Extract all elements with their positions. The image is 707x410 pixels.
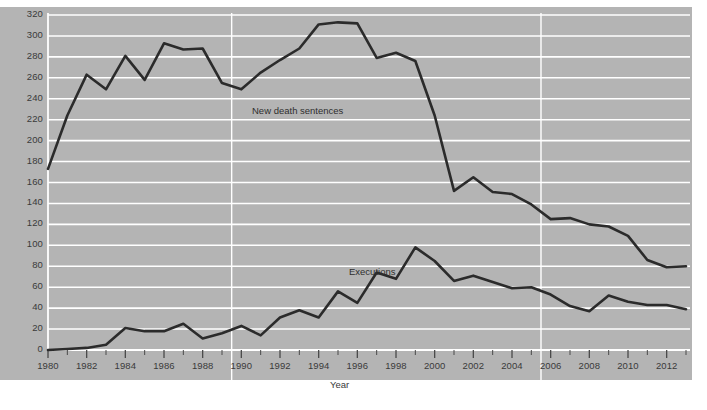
series-label-new-death-sentences: New death sentences [252, 105, 343, 116]
x-axis-tick-label: 1996 [337, 360, 377, 371]
y-axis-tick-label: 260 [13, 71, 43, 82]
y-axis-tick-label: 140 [13, 196, 43, 207]
y-axis-tick-label: 280 [13, 50, 43, 61]
chart-root: 0204060801001201401601802002202402602803… [0, 0, 707, 410]
y-axis-tick-label: 100 [13, 238, 43, 249]
y-axis-tick-label: 40 [13, 301, 43, 312]
y-axis-tick-label: 200 [13, 134, 43, 145]
x-axis-tick-label: 1998 [376, 360, 416, 371]
x-axis-tick-label: 1986 [144, 360, 184, 371]
axis-lines [48, 13, 690, 350]
x-axis-tick-label: 1994 [299, 360, 339, 371]
x-axis-tick-label: 1984 [105, 360, 145, 371]
series-label-executions: Executions [349, 266, 395, 277]
x-axis-title: Year [330, 379, 349, 390]
y-axis-tick-label: 320 [13, 8, 43, 19]
x-axis-tick-label: 2008 [569, 360, 609, 371]
data-series-lines [48, 22, 686, 350]
x-axis-ticks [48, 350, 686, 358]
y-axis-tick-label: 300 [13, 29, 43, 40]
y-axis-tick-label: 240 [13, 92, 43, 103]
y-axis-tick-label: 80 [13, 259, 43, 270]
x-axis-tick-label: 2006 [531, 360, 571, 371]
x-axis-tick-label: 2012 [647, 360, 687, 371]
x-axis-tick-label: 1980 [28, 360, 68, 371]
x-axis-tick-label: 1990 [221, 360, 261, 371]
y-axis-tick-label: 60 [13, 280, 43, 291]
y-axis-tick-label: 0 [13, 343, 43, 354]
x-axis-tick-label: 2002 [453, 360, 493, 371]
horizontal-gridlines [48, 15, 690, 329]
x-axis-tick-label: 1992 [260, 360, 300, 371]
x-axis-tick-label: 2010 [608, 360, 648, 371]
y-axis-tick-label: 180 [13, 155, 43, 166]
x-axis-tick-label: 2000 [415, 360, 455, 371]
chart-plot-area [0, 7, 692, 380]
chart-panel: 0204060801001201401601802002202402602803… [0, 7, 692, 380]
vertical-gridlines [232, 13, 541, 380]
x-axis-tick-label: 1982 [67, 360, 107, 371]
y-axis-tick-label: 20 [13, 322, 43, 333]
y-axis-tick-label: 160 [13, 176, 43, 187]
y-axis-tick-label: 120 [13, 217, 43, 228]
x-axis-tick-label: 2004 [492, 360, 532, 371]
y-axis-tick-label: 220 [13, 113, 43, 124]
x-axis-tick-label: 1988 [183, 360, 223, 371]
